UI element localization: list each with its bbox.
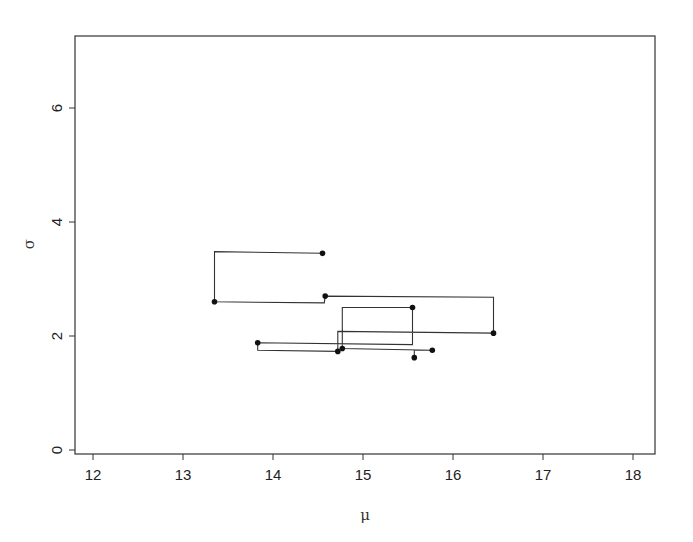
x-tick-label: 17 [535, 466, 552, 483]
y-tick-label: 2 [48, 332, 65, 340]
data-point [320, 251, 326, 257]
data-point [322, 293, 328, 299]
plot-frame [75, 36, 655, 454]
y-tick-label: 0 [48, 446, 65, 454]
data-point [412, 355, 418, 361]
x-tick-label: 15 [355, 466, 372, 483]
x-tick-label: 18 [625, 466, 642, 483]
y-tick-label: 6 [48, 104, 65, 112]
x-axis-title: μ [360, 506, 370, 524]
data-point [340, 346, 346, 352]
data-point [212, 299, 218, 305]
x-tick-label: 16 [445, 466, 462, 483]
x-axis: 12131415161718 [85, 454, 642, 483]
data-point [255, 340, 261, 346]
data-point [430, 347, 436, 353]
chart: 12131415161718 0246 μ σ [0, 0, 693, 542]
y-axis: 0246 [48, 104, 75, 454]
data-point [410, 305, 416, 311]
data-point [491, 330, 497, 336]
x-tick-label: 12 [85, 466, 102, 483]
x-tick-label: 13 [175, 466, 192, 483]
x-tick-label: 14 [265, 466, 282, 483]
y-axis-title: σ [20, 239, 38, 249]
y-tick-label: 4 [48, 218, 65, 226]
